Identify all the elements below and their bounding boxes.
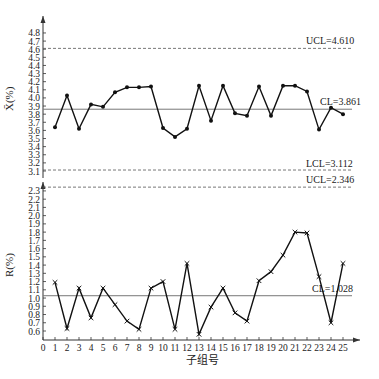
data-point <box>341 112 345 116</box>
xbar-chart: 3.13.23.33.43.53.63.73.83.94.04.14.24.34… <box>28 16 361 178</box>
x-tick-label: 13 <box>194 343 204 353</box>
x-tick-label: 4 <box>89 343 94 353</box>
data-point <box>113 90 117 94</box>
cl-label: CL=3.861 <box>320 96 361 107</box>
x-tick-label: 6 <box>113 343 118 353</box>
x-axis-label: 子组号 <box>186 353 219 366</box>
data-point <box>221 286 226 291</box>
x-tick-label: 19 <box>266 343 276 353</box>
x-tick-label: 20 <box>278 343 288 353</box>
y-tick-label: 4.8 <box>28 28 40 38</box>
data-point <box>317 128 321 132</box>
range-chart: 0.60.70.80.91.01.11.21.31.41.51.61.71.81… <box>28 174 360 353</box>
data-line <box>55 86 343 137</box>
x-tick-label: 16 <box>230 343 240 353</box>
data-point <box>281 84 285 88</box>
ucl-label: UCL=2.346 <box>306 174 354 185</box>
data-point <box>101 105 105 109</box>
data-point <box>269 114 273 118</box>
data-point <box>257 85 261 89</box>
x-axis-arrow-icon <box>353 338 360 343</box>
x-tick-label: 2 <box>65 343 70 353</box>
x-tick-label: 17 <box>242 343 252 353</box>
x-tick-label: 9 <box>149 343 154 353</box>
x-tick-label: 25 <box>338 343 348 353</box>
y-tick-label: 2.3 <box>28 186 40 196</box>
data-point <box>293 84 297 88</box>
xbar-r-chart-svg: 3.13.23.33.43.53.63.73.83.94.04.14.24.34… <box>0 0 379 379</box>
cl-label: CL=1.028 <box>312 283 353 294</box>
x-tick-label: 12 <box>182 343 192 353</box>
x-tick-label: 21 <box>290 343 300 353</box>
data-point <box>125 319 130 324</box>
x-tick-label: 10 <box>158 343 168 353</box>
data-point <box>125 85 129 89</box>
ucl-label: UCL=4.610 <box>306 35 354 46</box>
data-line <box>55 232 343 334</box>
data-point <box>149 85 153 89</box>
bottom-y-axis-label: R(%) <box>3 253 16 277</box>
x-tick-label: 7 <box>125 343 130 353</box>
data-point <box>173 135 177 139</box>
data-point <box>161 126 165 130</box>
control-chart: 3.13.23.33.43.53.63.73.83.94.04.14.24.34… <box>0 0 379 379</box>
y-axis-arrow-icon <box>41 182 46 189</box>
x-tick-label: 24 <box>326 343 336 353</box>
data-point <box>305 89 309 93</box>
data-point <box>269 269 274 274</box>
data-point <box>281 253 286 258</box>
data-point <box>113 302 118 307</box>
data-point <box>329 106 333 110</box>
y-axis-arrow-icon <box>41 16 46 23</box>
x-tick-label: 11 <box>170 343 179 353</box>
x-tick-label: 8 <box>137 343 142 353</box>
data-point <box>185 127 189 131</box>
data-point <box>209 119 213 123</box>
data-point <box>197 84 201 88</box>
data-point <box>233 311 238 316</box>
x-tick-label: 0 <box>41 343 46 353</box>
data-point <box>233 111 237 115</box>
x-tick-label: 14 <box>206 343 216 353</box>
x-tick-label: 18 <box>254 343 264 353</box>
data-point <box>65 93 69 97</box>
data-point <box>77 127 81 131</box>
x-tick-label: 3 <box>77 343 82 353</box>
data-point <box>137 85 141 89</box>
data-point <box>89 102 93 106</box>
data-point <box>53 125 57 129</box>
data-point <box>245 114 249 118</box>
lcl-label: LCL=3.112 <box>306 158 353 169</box>
x-tick-label: 5 <box>101 343 106 353</box>
x-tick-label: 1 <box>53 343 58 353</box>
x-tick-label: 23 <box>314 343 324 353</box>
x-tick-label: 15 <box>218 343 228 353</box>
x-tick-label: 22 <box>302 343 312 353</box>
top-y-axis-label: X̄(%) <box>3 86 16 111</box>
data-point <box>221 84 225 88</box>
